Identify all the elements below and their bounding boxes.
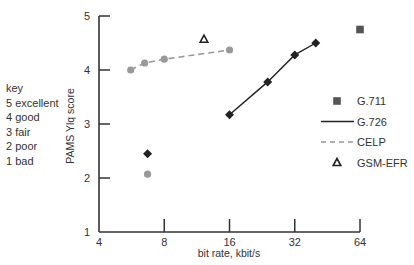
x-tick-label: 8: [161, 236, 167, 248]
legend: G.711G.726CELPGSM-EFR: [321, 95, 408, 169]
series-g-726: [225, 39, 320, 120]
diamond-marker: [143, 149, 152, 158]
legend-item-g-711: G.711: [333, 95, 386, 107]
y-tick-label: 4: [84, 64, 90, 76]
y-tick-label: 2: [84, 172, 90, 184]
x-axis-title: bit rate, kbit/s: [198, 247, 260, 259]
y-tick-label: 3: [84, 118, 90, 130]
triangle-marker: [200, 35, 208, 42]
circle-marker: [226, 46, 233, 53]
legend-label: G.726: [357, 116, 387, 128]
legend-item-celp: CELP: [321, 136, 386, 148]
triangle-marker: [333, 159, 341, 166]
x-tick-label: 32: [289, 236, 301, 248]
series-line: [230, 43, 316, 115]
circle-marker: [144, 171, 151, 178]
circle-marker: [127, 66, 134, 73]
square-marker: [333, 97, 341, 105]
legend-label: GSM-EFR: [357, 157, 408, 169]
series-gsm-efr: [200, 35, 208, 42]
legend-item-gsm-efr: GSM-EFR: [333, 157, 408, 169]
legend-label: G.711: [357, 95, 386, 107]
circle-marker: [141, 59, 148, 66]
axes: 1234548163264: [84, 10, 366, 248]
chart: 1234548163264 G.711G.726CELPGSM-EFR bit …: [0, 0, 414, 265]
diamond-marker: [311, 39, 320, 48]
x-tick-label: 4: [96, 236, 102, 248]
y-tick-label: 1: [84, 226, 90, 238]
x-tick-label: 64: [354, 236, 366, 248]
y-tick-label: 5: [84, 10, 90, 22]
series-g-711: [356, 26, 364, 34]
data-series: [127, 26, 364, 178]
square-marker: [356, 26, 364, 34]
circle-marker: [161, 56, 168, 63]
series-celp: [127, 46, 233, 73]
y-axis-title: PAMS Ylq score: [64, 88, 76, 164]
legend-label: CELP: [357, 136, 386, 148]
legend-item-g-726: G.726: [321, 116, 387, 128]
